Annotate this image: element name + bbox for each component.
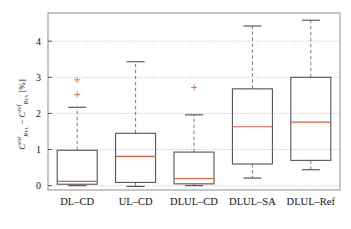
plot-background: [48, 13, 340, 190]
y-tick-label-1: 1: [36, 144, 41, 155]
x-tick-label-4: DLUL–Ref: [287, 196, 336, 207]
x-tick-group: DL–CDUL–CDDLUL–CDDLUL–SADLUL–Ref: [60, 196, 335, 207]
x-tick-label-2: DLUL–CD: [170, 196, 218, 207]
y-tick-label-0: 0: [36, 180, 41, 191]
y-tick-label-4: 4: [36, 36, 41, 47]
y-tick-label-2: 2: [36, 108, 41, 119]
plot-area-background: [48, 13, 340, 190]
x-tick-label-3: DLUL–SA: [229, 196, 276, 207]
boxplot-canvas: 01234 DL–CDUL–CDDLUL–CDDLUL–SADLUL–Ref: [0, 0, 351, 229]
y-tick-label-3: 3: [36, 72, 41, 83]
boxplot-figure: CestRTA − CrefRTA [%] 01234 DL–CDUL–CDDL…: [0, 0, 351, 229]
x-tick-label-0: DL–CD: [60, 196, 94, 207]
x-tick-label-1: UL–CD: [119, 196, 153, 207]
